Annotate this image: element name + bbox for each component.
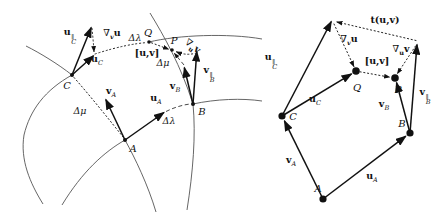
point-A-right — [319, 195, 326, 202]
curve-mu-through-C-upper — [26, 46, 72, 75]
label-point-B-left: B — [198, 107, 205, 117]
label-point-B-right: B — [398, 119, 405, 129]
curve-lambda-through-A — [62, 140, 125, 205]
label-nabla-v-u-left: ∇vu — [103, 28, 120, 41]
label-delta-mu-left-left-panel: Δμ — [73, 106, 86, 116]
label-nabla-u-v-right: ∇uv — [393, 44, 410, 57]
vector-v-parallel-B-left — [193, 52, 197, 105]
dotted-nabla-v-u-arrow — [92, 29, 94, 52]
curve-lambda-right-of-B — [193, 99, 262, 104]
label-torsion-right: t(u,v) — [370, 15, 399, 25]
label-v-A-left: vA — [106, 86, 116, 99]
label-point-C-right: C — [289, 112, 297, 122]
point-P-left — [170, 48, 174, 52]
label-v-parallel-B-right: v∥B — [420, 87, 431, 105]
dotted-commutator-arrow-right — [360, 72, 390, 77]
point-P-right — [391, 74, 399, 82]
label-nabla-v-u-right: ∇vu — [340, 34, 357, 47]
dashed-delta-lambda-uA-tip-to-B — [166, 104, 191, 112]
dashed-delta-mu-vB-tip-to-P — [175, 54, 185, 66]
label-delta-mu-right-left-panel: Δμ — [156, 58, 169, 68]
label-u-A-right: uA — [366, 171, 378, 184]
label-point-Q-left: Q — [144, 28, 152, 38]
label-u-C-left: uC — [91, 54, 103, 67]
label-v-B-left: vB — [170, 81, 180, 94]
label-u-parallel-C-left: u∥C — [64, 27, 76, 45]
vector-v-parallel-B-right — [410, 45, 417, 134]
left-panel-curves — [23, 13, 262, 212]
vector-v-B-left — [184, 68, 193, 105]
label-v-B-right: vB — [379, 99, 389, 112]
point-B-right — [406, 129, 413, 136]
vector-u-A-right — [323, 136, 406, 199]
label-point-A-right: A — [314, 184, 321, 194]
figure: u∥C ∇vu Δλ Q [u,v] P ∇uv Δμ vB v∥B uC C … — [0, 0, 439, 217]
label-v-parallel-B-left: v∥B — [204, 65, 215, 83]
label-point-C-left: C — [63, 81, 71, 91]
label-v-A-right: vA — [286, 155, 296, 168]
point-C-left — [70, 73, 74, 77]
label-point-Q-right: Q — [353, 83, 361, 93]
label-u-C-right: uC — [309, 94, 321, 107]
point-A-left — [123, 138, 127, 142]
label-point-P-left: P — [171, 36, 178, 46]
point-B-left — [191, 102, 195, 106]
label-u-A-left: uA — [150, 93, 162, 106]
point-Q-right — [352, 67, 360, 75]
label-commutator-right: [u,v] — [365, 56, 390, 66]
label-delta-lambda-top-left: Δλ — [129, 33, 142, 43]
label-delta-lambda-bottom-left: Δλ — [163, 116, 176, 126]
point-C-right — [278, 112, 285, 119]
point-Q-left — [147, 40, 151, 44]
label-point-A-left: A — [129, 144, 136, 154]
curve-lambda-through-C — [23, 75, 72, 204]
label-u-parallel-C-right: u∥C — [265, 52, 277, 70]
vector-u-A-left — [125, 113, 164, 141]
label-point-P-right: P — [395, 85, 402, 95]
